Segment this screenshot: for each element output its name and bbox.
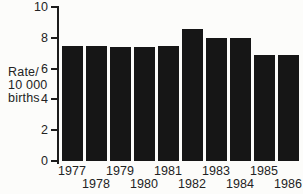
- x-tick-label-1986: 1986: [269, 178, 303, 190]
- x-tick-label-1982: 1982: [173, 178, 211, 190]
- y-tick-0: [51, 160, 57, 162]
- x-tick-label-1985: 1985: [245, 165, 283, 177]
- bar-1985: [254, 55, 275, 161]
- y-tick-label-6: 6: [29, 62, 48, 76]
- x-tick-label-1984: 1984: [221, 178, 259, 190]
- bar-1979: [110, 47, 131, 161]
- y-axis-line: [57, 6, 59, 164]
- y-tick-8: [51, 37, 57, 39]
- bar-1981: [158, 46, 179, 162]
- plot-area: 0246810 19771978197919801981198219831984…: [57, 7, 303, 161]
- bar-1982: [182, 29, 203, 161]
- y-tick-4: [51, 98, 57, 100]
- x-tick-label-1980: 1980: [125, 178, 163, 190]
- y-axis-label-line-2: 10 000: [8, 79, 47, 92]
- y-tick-label-0: 0: [29, 154, 48, 168]
- x-tick-label-1978: 1978: [77, 178, 115, 190]
- bar-1978: [86, 46, 107, 162]
- bar-1984: [230, 38, 251, 161]
- y-tick-label-8: 8: [29, 31, 48, 45]
- y-tick-6: [51, 68, 57, 70]
- x-tick-label-1983: 1983: [197, 165, 235, 177]
- bar-1983: [206, 38, 227, 161]
- bar-1986: [278, 55, 299, 161]
- y-tick-label-2: 2: [29, 123, 48, 137]
- x-tick-label-1977: 1977: [53, 165, 91, 177]
- y-tick-10: [51, 6, 57, 8]
- bar-chart-figure: Rate/ 10 000 births 0246810 197719781979…: [0, 0, 303, 194]
- bar-1977: [62, 46, 83, 162]
- y-tick-2: [51, 129, 57, 131]
- y-tick-label-4: 4: [29, 92, 48, 106]
- bar-1980: [134, 47, 155, 161]
- x-tick-label-1981: 1981: [149, 165, 187, 177]
- x-tick-label-1979: 1979: [101, 165, 139, 177]
- y-tick-label-10: 10: [29, 0, 48, 14]
